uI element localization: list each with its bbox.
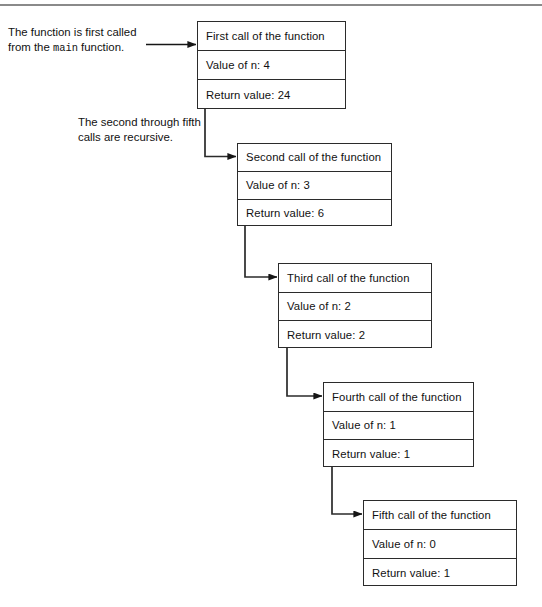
call-frame-first-value: Value of n: 4	[198, 50, 345, 79]
call-frame-fourth-value: Value of n: 1	[324, 411, 473, 439]
call-frame-fifth-return: Return value: 1	[364, 558, 516, 587]
call-frame-fourth-return: Return value: 1	[324, 439, 473, 468]
call-frame-third-value: Value of n: 2	[279, 292, 431, 320]
call-frame-first-return: Return value: 24	[198, 79, 345, 110]
wire-second-to-third	[245, 226, 277, 277]
call-frame-third-header: Third call of the function	[279, 264, 431, 292]
annotation-main-call-line2-pre: from the	[8, 41, 53, 53]
annotation-recursive-calls-line2: calls are recursive.	[78, 130, 201, 145]
wire-first-to-second	[205, 109, 236, 157]
call-frame-second: Second call of the function Value of n: …	[237, 143, 392, 226]
call-frame-second-header: Second call of the function	[238, 144, 391, 171]
call-frame-fifth-value: Value of n: 0	[364, 529, 516, 558]
annotation-main-call-line2-post: function.	[78, 41, 124, 53]
wire-fourth-to-fifth	[332, 467, 362, 514]
wire-third-to-fourth	[287, 348, 322, 396]
annotation-main-call-line1: The function is first called	[8, 25, 137, 40]
call-frame-first-header: First call of the function	[198, 22, 345, 50]
call-frame-fifth: Fifth call of the function Value of n: 0…	[363, 500, 517, 586]
call-frame-second-value: Value of n: 3	[238, 171, 391, 199]
call-frame-fourth: Fourth call of the function Value of n: …	[323, 382, 474, 467]
call-frame-fifth-header: Fifth call of the function	[364, 501, 516, 529]
call-frame-third: Third call of the function Value of n: 2…	[278, 263, 432, 348]
call-frame-fourth-header: Fourth call of the function	[324, 383, 473, 411]
annotation-recursive-calls-line1: The second through fifth	[78, 115, 201, 130]
call-frame-third-return: Return value: 2	[279, 320, 431, 349]
annotation-main-call-line2: from the main function.	[8, 40, 137, 56]
annotation-recursive-calls: The second through fifth calls are recur…	[78, 115, 201, 144]
annotation-main-call-code: main	[53, 42, 78, 54]
diagram-canvas: The function is first called from the ma…	[0, 0, 542, 607]
annotation-main-call: The function is first called from the ma…	[8, 25, 137, 55]
call-frame-second-return: Return value: 6	[238, 199, 391, 227]
top-divider-rule	[0, 4, 542, 6]
call-frame-first: First call of the function Value of n: 4…	[197, 21, 346, 109]
